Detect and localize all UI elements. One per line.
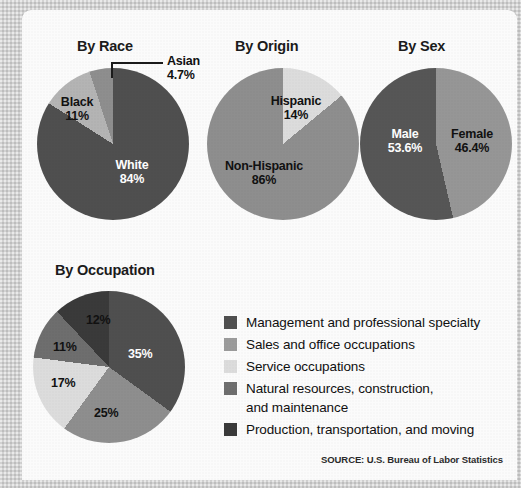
legend-item-natural-resources: Natural resources, construction, and mai… [224,379,514,419]
slice-label-black-name: Black [61,95,93,109]
occupation-legend: Management and professional specialty Sa… [224,313,514,442]
slice-label-hispanic-name: Hispanic [271,94,322,108]
slice-label-white-value: 84% [120,172,144,186]
slice-label-white-name: White [115,158,148,172]
leader-line-asian-vertical [111,62,113,78]
pie-by-origin [207,68,359,220]
slice-label-white: White 84% [102,158,162,186]
legend-item-management: Management and professional specialty [224,313,514,334]
slice-label-black-value: 11% [65,109,89,123]
legend-label-service: Service occupations [246,357,365,376]
slice-label-occupation-17: 17% [51,376,75,390]
slice-label-female: Female 46.4% [441,127,503,155]
legend-label-natural-resources: Natural resources, construction, and mai… [246,379,433,417]
slice-label-occupation-25: 25% [94,406,118,420]
slice-label-non-hispanic-name: Non-Hispanic [225,159,303,173]
legend-swatch-icon-natural-resources [224,382,237,395]
legend-label-natural-resources-line2: and maintenance [246,398,433,417]
slice-label-female-name: Female [451,127,493,141]
legend-item-service: Service occupations [224,357,514,378]
chart-title-by-occupation: By Occupation [55,262,155,278]
chart-title-by-origin: By Origin [235,38,298,54]
legend-label-natural-resources-line1: Natural resources, construction, [246,381,433,396]
slice-label-occupation-11: 11% [53,340,77,354]
slice-label-female-value: 46.4% [455,141,489,155]
slice-label-male-value: 53.6% [388,141,422,155]
slice-label-occupation-35: 35% [128,347,152,361]
figure-panel: By Race White 84% Black 11% Asian 4.7% B… [22,10,517,480]
legend-label-production: Production, transportation, and moving [246,420,474,439]
slice-label-hispanic-value: 14% [284,108,308,122]
legend-swatch-icon-sales-office [224,338,237,351]
slice-label-asian: Asian 4.7% [167,54,200,82]
legend-item-production: Production, transportation, and moving [224,420,514,441]
slice-label-male: Male 53.6% [377,127,433,155]
legend-item-sales-office: Sales and office occupations [224,335,514,356]
legend-label-sales-office: Sales and office occupations [246,335,415,354]
legend-label-management: Management and professional specialty [246,313,480,332]
slice-label-male-name: Male [392,127,419,141]
source-note: SOURCE: U.S. Bureau of Labor Statistics [321,454,503,465]
chart-title-by-sex: By Sex [398,38,445,54]
legend-swatch-icon-production [224,423,237,436]
pie-by-race [37,68,189,220]
slice-label-asian-value: 4.7% [167,68,195,82]
slice-label-black: Black 11% [51,95,103,123]
legend-swatch-icon-service [224,360,237,373]
slice-label-non-hispanic-value: 86% [252,173,276,187]
leader-line-asian-horizontal [111,62,163,64]
slice-label-hispanic: Hispanic 14% [261,94,331,122]
chart-title-by-race: By Race [77,38,133,54]
legend-swatch-icon-management [224,316,237,329]
slice-label-occupation-12: 12% [86,313,110,327]
slice-label-asian-name: Asian [167,54,200,68]
slice-label-non-hispanic: Non-Hispanic 86% [214,159,314,187]
